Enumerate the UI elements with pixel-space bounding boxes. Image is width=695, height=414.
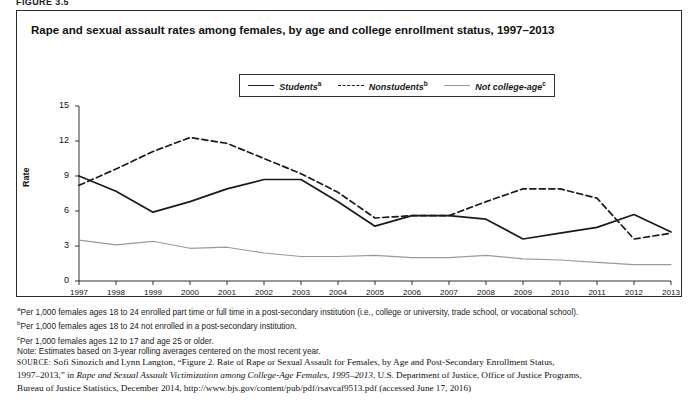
footnote-a: aPer 1,000 females ages 18 to 24 enrolle… <box>17 304 685 318</box>
x-tick-label: 2007 <box>432 288 466 297</box>
x-tick-label: 2012 <box>617 288 651 297</box>
x-tick-label: 2003 <box>284 288 318 297</box>
series-line-not-college-age <box>79 240 671 264</box>
y-tick-label: 15 <box>49 100 69 110</box>
source-line-2b: , U.S. Department of Justice, Office of … <box>373 370 582 380</box>
source-publication-title: Rape and Sexual Assault Victimization am… <box>76 370 372 380</box>
x-tick-label: 2009 <box>506 288 540 297</box>
x-tick-label: 1998 <box>99 288 133 297</box>
chart-plot-area: Rate 03691215 19971998199920002001200220… <box>17 11 683 298</box>
chart-svg <box>17 11 683 298</box>
figure-footnotes: aPer 1,000 females ages 18 to 24 enrolle… <box>17 304 685 358</box>
y-tick-label: 6 <box>49 205 69 215</box>
x-tick-label: 2005 <box>358 288 392 297</box>
x-tick-label: 2002 <box>247 288 281 297</box>
footnote-b: bPer 1,000 females ages 18 to 24 not enr… <box>17 318 685 332</box>
x-tick-label: 2010 <box>543 288 577 297</box>
y-tick-label: 3 <box>49 240 69 250</box>
figure-panel: Rape and sexual assault rates among fema… <box>16 10 682 297</box>
footnote-c: cPer 1,000 females ages 12 to 17 and age… <box>17 333 685 347</box>
x-tick-label: 1997 <box>62 288 96 297</box>
y-tick-label: 0 <box>49 275 69 285</box>
source-line-2a: 1997–2013,” in <box>17 370 76 380</box>
figure-source: SOURCE: Sofi Sinozich and Lynn Langton, … <box>17 356 683 394</box>
x-tick-label: 2008 <box>469 288 503 297</box>
y-tick-label: 9 <box>49 170 69 180</box>
figure-page: FIGURE 3.5 Rape and sexual assault rates… <box>0 0 695 414</box>
source-line-1: Sofi Sinozich and Lynn Langton, “Figure … <box>51 357 554 367</box>
figure-number: FIGURE 3.5 <box>16 0 69 7</box>
source-line-3: Bureau of Justice Statistics, December 2… <box>17 383 471 393</box>
x-tick-label: 2011 <box>580 288 614 297</box>
series-line-students <box>79 176 671 239</box>
x-tick-label: 2013 <box>654 288 688 297</box>
y-tick-label: 12 <box>49 135 69 145</box>
x-tick-label: 2006 <box>395 288 429 297</box>
source-prefix: SOURCE: <box>17 358 51 367</box>
x-tick-label: 2004 <box>321 288 355 297</box>
x-tick-label: 2001 <box>210 288 244 297</box>
x-tick-label: 1999 <box>136 288 170 297</box>
series-line-nonstudents <box>79 138 671 240</box>
x-tick-label: 2000 <box>173 288 207 297</box>
